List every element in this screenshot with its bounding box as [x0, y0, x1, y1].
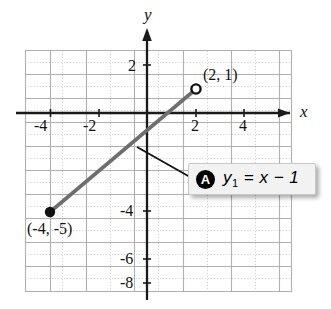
point-marker-open: [191, 84, 200, 93]
x-tick-label-2: 2: [191, 118, 199, 134]
x-tick-label-neg2: -2: [83, 118, 96, 134]
point-marker-filled: [45, 207, 55, 217]
callout-equation: y1 = x − 1: [223, 168, 299, 189]
x-tick-label-neg4: -4: [34, 118, 47, 134]
line-segment-y1: [50, 89, 196, 212]
callout-equation-variable: y: [223, 168, 232, 187]
figure-canvas: y x -4 -2 2 4 2 -4 -6 -8 (2, 1) (-4, -5)…: [0, 0, 331, 309]
callout-equation-subscript: 1: [232, 178, 239, 190]
point-label-2-1: (2, 1): [203, 67, 238, 83]
y-tick-label-neg6: -6: [120, 251, 133, 267]
y-tick-label-2: 2: [128, 58, 136, 74]
callout-badge-a: A: [196, 170, 215, 189]
x-axis-arrow: [278, 109, 290, 118]
x-tick-label-4: 4: [239, 118, 247, 134]
y-axis-arrow: [142, 28, 152, 41]
y-tick-label-neg8: -8: [120, 275, 133, 291]
y-axis-label: y: [144, 6, 152, 23]
coordinate-plane-graphic: [0, 0, 331, 309]
equation-callout[interactable]: A y1 = x − 1: [188, 163, 316, 195]
point-label-neg4-neg5: (-4, -5): [27, 221, 72, 237]
callout-leader-line: [137, 147, 190, 177]
y-tick-label-neg4: -4: [120, 203, 133, 219]
callout-equation-rest: = x − 1: [239, 168, 300, 187]
x-axis-label: x: [300, 103, 308, 120]
